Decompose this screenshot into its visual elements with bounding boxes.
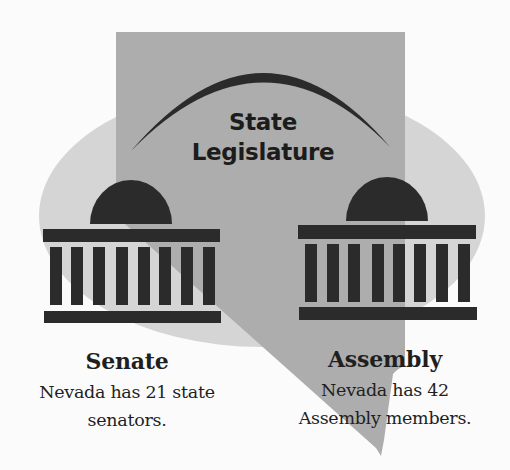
senate-description-line-1: Nevada has 21 state [2, 378, 252, 406]
assembly-description-line-1: Nevada has 42 [260, 376, 510, 404]
assembly-heading: Assembly [260, 345, 510, 373]
assembly-description-line-2: Assembly members. [260, 404, 510, 432]
state-legislature-title: State Legislature [163, 107, 363, 167]
senate-description-line-2: senators. [2, 406, 252, 434]
assembly-label: Assembly Nevada has 42 Assembly members. [260, 345, 510, 432]
senate-heading: Senate [2, 347, 252, 375]
title-line-1: State [229, 109, 297, 135]
title-line-2: Legislature [192, 139, 335, 165]
senate-label: Senate Nevada has 21 state senators. [2, 347, 252, 434]
